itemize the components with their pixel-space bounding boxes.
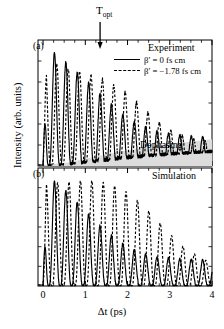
legend-swatch-dashed: [114, 70, 140, 71]
panel-a-title: Experiment: [148, 43, 195, 53]
topt-marker-label: Topt: [96, 5, 112, 19]
panel-a-tag: (a): [33, 42, 44, 52]
legend-item-beta-negative: β′ = −1.78 fs cm: [114, 65, 201, 76]
panel-b-tag: (b): [33, 170, 44, 180]
x-tick-label: 4: [202, 290, 222, 300]
legend-item-beta-zero: β′ = 0 fs cm: [114, 54, 201, 65]
x-axis-label: Δt (ps): [0, 307, 224, 318]
panel-b-title: Simulation: [152, 171, 196, 181]
legend-label-solid: β′ = 0 fs cm: [144, 55, 185, 65]
x-tick-label: 0: [33, 290, 53, 300]
legend-label-dashed: β′ = −1.78 fs cm: [144, 66, 201, 76]
x-tick-label: 1: [75, 290, 95, 300]
y-axis-label: Intensity (arb. units): [13, 45, 24, 205]
figure-panel: Topt (a) Experiment (b) Simulation Depha…: [0, 0, 224, 329]
x-tick-label: 3: [160, 290, 180, 300]
x-tick-label: 2: [118, 290, 138, 300]
legend-swatch-solid: [114, 59, 140, 60]
legend: β′ = 0 fs cm β′ = −1.78 fs cm: [114, 54, 201, 76]
dephasing-region-label: Dephasing: [140, 140, 183, 150]
